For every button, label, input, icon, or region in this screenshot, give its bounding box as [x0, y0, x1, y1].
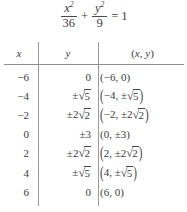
point-paren-open: ( — [100, 105, 104, 124]
exponent-two: 2 — [70, 0, 74, 9]
point-y-radicand: 5 — [133, 89, 140, 102]
cell-x-value: −6 — [0, 71, 34, 83]
plus-sign: + — [80, 10, 89, 23]
point-y-radicand: 2 — [132, 146, 139, 159]
equals-sign: = — [110, 10, 119, 23]
cell-x-value: −2 — [0, 109, 34, 121]
table-row: −4±√5(−4, ±√5) — [0, 86, 187, 105]
point-paren-close: ) — [145, 105, 149, 124]
cell-point-value: (4, ±√5) — [95, 165, 183, 180]
point-y: ±3 — [115, 128, 127, 140]
point-y-radicand: 5 — [126, 166, 133, 179]
point-y-radical: √5 — [121, 165, 134, 180]
point-paren-close: ) — [139, 143, 143, 162]
point-comma: , — [109, 166, 112, 178]
cell-x-value: 6 — [0, 186, 34, 198]
point-y-radical: √2 — [126, 146, 139, 161]
point-x: −2 — [104, 108, 116, 120]
table-row: 4±√5(4, ±√5) — [0, 163, 187, 182]
table-row: 60(6, 0) — [0, 182, 187, 201]
paren-close: ) — [150, 47, 154, 59]
point-comma: , — [109, 147, 112, 159]
table-row: −2±2√2(−2, ±2√2) — [0, 105, 187, 124]
exponent-two: 2 — [101, 0, 105, 9]
y-radicand: 2 — [84, 146, 91, 159]
cell-x-value: 2 — [0, 147, 34, 159]
equation-right-side: 1 — [121, 10, 127, 23]
cell-point-value: (−2, ±2√2) — [95, 107, 183, 122]
header-x: x — [0, 47, 38, 59]
point-paren-close: ) — [133, 162, 137, 181]
table-row: 2±2√2(2, ±2√2) — [0, 144, 187, 163]
fraction-denominator-36: 36 — [61, 17, 78, 31]
point-paren-open: ( — [100, 85, 104, 104]
point-comma: , — [115, 89, 118, 101]
point-y-radical: √2 — [132, 107, 145, 122]
point-y-radicand: 2 — [138, 108, 145, 121]
point-paren-open: ( — [100, 162, 104, 181]
point-paren-close: ) — [126, 128, 130, 140]
cell-x-value: −4 — [0, 90, 34, 102]
point-comma: , — [109, 128, 112, 140]
fraction-y-squared-over-9: y2 9 — [92, 2, 107, 31]
cell-y-value: ±2√2 — [34, 146, 95, 161]
cell-y-value: ±√5 — [34, 88, 95, 103]
cell-x-value: 0 — [0, 128, 34, 140]
fraction-x-squared-over-36: x2 36 — [61, 2, 78, 31]
point-header-comma: , — [140, 47, 143, 59]
point-comma: , — [109, 186, 112, 198]
y-radicand: 5 — [84, 166, 91, 179]
cell-point-value: (−4, ±√5) — [95, 88, 183, 103]
cell-point-value: (−6, 0) — [95, 71, 183, 83]
point-paren-open: ( — [100, 143, 104, 162]
y-radical: √5 — [78, 165, 91, 180]
point-y-radical: √5 — [127, 88, 140, 103]
y-radical: √5 — [78, 88, 91, 103]
header-point: (x, y) — [98, 47, 187, 59]
header-y: y — [38, 47, 98, 59]
fraction-numerator-x: x2 — [62, 2, 75, 16]
fraction-denominator-9: 9 — [95, 17, 105, 31]
y-radicand: 2 — [84, 108, 91, 121]
cell-point-value: (6, 0) — [95, 186, 183, 198]
point-x: −4 — [104, 89, 116, 101]
point-paren-close: ) — [120, 186, 124, 198]
cell-x-value: 4 — [0, 167, 34, 179]
header-rule — [4, 64, 184, 65]
y-radical: √2 — [78, 146, 91, 161]
cell-y-value: ±√5 — [34, 165, 95, 180]
fraction-numerator-y: y2 — [93, 2, 106, 16]
equation-row: x2 36 + y2 9 = 1 — [60, 2, 128, 31]
y-radicand: 5 — [84, 89, 91, 102]
cell-y-value: 0 — [34, 186, 95, 198]
table-header-row: x y (x, y) — [0, 43, 187, 63]
y-radical: √2 — [78, 107, 91, 122]
point-paren-close: ) — [126, 71, 130, 83]
values-table: x y (x, y) −60(−6, 0)−4±√5(−4, ±√5)−2±2√… — [0, 42, 187, 206]
cell-point-value: (0, ±3) — [95, 128, 183, 140]
cell-point-value: (2, ±2√2) — [95, 146, 183, 161]
point-comma: , — [115, 71, 118, 83]
point-x: −6 — [104, 71, 116, 83]
point-paren-close: ) — [140, 85, 144, 104]
cell-y-value: ±3 — [34, 128, 95, 140]
point-comma: , — [115, 108, 118, 120]
ellipse-equation: x2 36 + y2 9 = 1 — [0, 2, 187, 31]
math-table-figure: x2 36 + y2 9 = 1 x y (x, y) −60(−6, 0)−4… — [0, 0, 187, 212]
cell-y-value: 0 — [34, 71, 95, 83]
cell-y-value: ±2√2 — [34, 107, 95, 122]
table-row: 0±3(0, ±3) — [0, 125, 187, 144]
table-row: −60(−6, 0) — [0, 67, 187, 86]
